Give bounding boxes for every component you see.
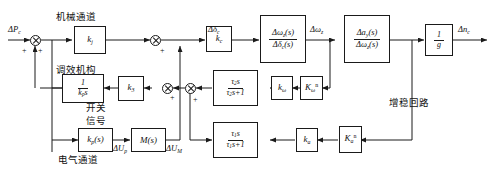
sign-inner-bottom: + <box>170 93 175 102</box>
tf1-num: Δωz(s) <box>269 28 297 40</box>
sum-input[interactable] <box>30 35 41 46</box>
signal-delta-omega-z: Δωz <box>310 24 323 35</box>
tf2-num: Δay(s) <box>354 28 381 40</box>
signal-dup-base: ΔU <box>113 143 124 153</box>
washout1-frac: τ1s τ1s+1 <box>223 130 247 150</box>
label-mechanical-channel: 机械通道 <box>56 9 96 23</box>
signal-dw-base: Δω <box>310 24 321 34</box>
signal-dd-base: Δδ <box>208 24 217 34</box>
gain-kc-label: kc <box>216 34 223 45</box>
gain-k3-block[interactable]: k3 <box>118 76 144 101</box>
signal-dw-sub: z <box>321 29 323 35</box>
gain-K-omega-n-block[interactable]: Kωn <box>300 76 323 100</box>
tf2-frac: Δay(s) Δωz(s) <box>353 28 381 51</box>
signal-dum-base: ΔU <box>166 143 177 153</box>
label-switch: 开关 <box>86 100 106 114</box>
signal-input-sub: c <box>18 29 21 35</box>
gain-k3-label: k3 <box>128 83 135 94</box>
gain-kj-label: kj <box>87 35 93 46</box>
washout-tau2-block[interactable]: τ2s τ2s+1 <box>213 70 258 106</box>
tf2-den: Δωz(s) <box>353 40 381 51</box>
block-diagram-canvas: 机械通道 调效机构 开关 信号 电气通道 增稳回路 ΔPc Δδc Δωz ΔU… <box>0 0 498 169</box>
gain-1-over-g-block[interactable]: 1 g <box>425 24 453 56</box>
label-electrical-channel: 电气通道 <box>58 152 98 166</box>
gain-K-omega-n-label: Kωn <box>305 83 318 94</box>
signal-delta-up: ΔUp <box>113 143 127 154</box>
gain-K-a-n-block[interactable]: Kan <box>339 126 362 153</box>
gain-kj-block[interactable]: kj <box>74 26 106 54</box>
washout2-frac: τ2s τ2s+1 <box>223 78 247 98</box>
signal-dup-sub: p <box>124 148 127 154</box>
label-switch-signal: 信号 <box>86 113 106 127</box>
transfer-kp-s-block[interactable]: kp(s) <box>78 128 113 152</box>
washout1-num: τ1s <box>228 130 243 141</box>
sum-channel-merge[interactable] <box>150 35 161 46</box>
integrator-1-over-kps-block[interactable]: 1 kps <box>62 74 104 103</box>
tf-omega-over-delta-block[interactable]: Δωz(s) Δδc(s) <box>260 15 306 63</box>
signal-output-delta-nc: Δnc <box>458 24 470 35</box>
signal-dum-sub: M <box>177 148 182 154</box>
transfer-M-label: M(s) <box>140 136 157 145</box>
gain-k-omega-block[interactable]: kω <box>271 76 293 100</box>
washout-tau1-block[interactable]: τ1s τ1s+1 <box>213 122 258 158</box>
washout2-num: τ2s <box>228 78 243 89</box>
tf-a-over-omega-block[interactable]: Δay(s) Δωz(s) <box>344 15 390 63</box>
integrator-frac: 1 kps <box>75 79 90 98</box>
tf1-frac: Δωz(s) Δδc(s) <box>269 28 297 51</box>
signal-out-sub: c <box>467 29 470 35</box>
sum-feedback-inner[interactable] <box>162 83 173 94</box>
sign-input-left: + <box>22 46 27 55</box>
integrator-den: kps <box>75 89 90 99</box>
gain-K-a-n-label: Kan <box>345 134 357 145</box>
signal-out-base: Δn <box>458 24 467 34</box>
signal-input-base: ΔP <box>8 24 18 34</box>
sign-input-bottom: + <box>38 46 43 55</box>
g-den: g <box>434 41 444 50</box>
gain-k-omega-label: kω <box>278 83 286 94</box>
signal-dd-sub: c <box>217 29 220 35</box>
signal-delta-delta-c: Δδc <box>208 24 219 35</box>
signal-delta-um: ΔUM <box>166 143 182 154</box>
gain-ka-block[interactable]: ka <box>296 128 318 152</box>
gain-ka-label: ka <box>304 135 311 146</box>
sign-merge-bottom: + <box>160 46 165 55</box>
label-trim-mechanism: 调效机构 <box>56 62 96 76</box>
washout1-den: τ1s+1 <box>223 141 247 151</box>
g-frac: 1 g <box>434 31 444 50</box>
sum-feedback-outer[interactable] <box>185 83 196 94</box>
transfer-kp-label: kp(s) <box>87 135 103 146</box>
signal-input-delta-pc: ΔPc <box>8 24 21 35</box>
washout2-den: τ2s+1 <box>223 89 247 99</box>
sign-outer-bottom: + <box>193 95 198 104</box>
transfer-M-s-block[interactable]: M(s) <box>131 128 166 152</box>
tf1-den: Δδc(s) <box>270 40 296 51</box>
label-stability-loop: 增稳回路 <box>389 95 429 109</box>
